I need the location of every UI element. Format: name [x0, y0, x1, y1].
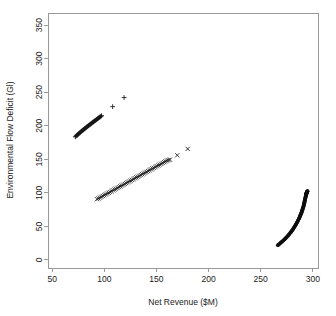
y-tick-label: 150	[34, 152, 44, 166]
x-tick-label: 50	[47, 274, 57, 284]
data-points-group	[73, 95, 309, 247]
y-axis-title: Environmental Flow Deficit (Gl)	[5, 81, 15, 198]
x-tick-label: 150	[149, 274, 163, 284]
y-tick-label: 50	[34, 221, 44, 231]
series-middle-band	[95, 147, 190, 202]
data-point	[306, 189, 310, 193]
x-axis-title: Net Revenue ($M)	[148, 297, 218, 307]
x-tick-label: 200	[201, 274, 215, 284]
data-point	[186, 147, 190, 151]
y-tick-label: 300	[34, 51, 44, 65]
y-tick-label: 100	[34, 185, 44, 199]
y-tick-label: 0	[34, 257, 44, 262]
series-lower-right-arc	[276, 189, 309, 247]
plot-canvas: 50100150200250300 050100150200250300350 …	[0, 0, 336, 316]
series-upper-band	[73, 95, 127, 139]
y-tick-label: 250	[34, 85, 44, 99]
y-tick-labels: 050100150200250300350	[34, 18, 44, 263]
x-tick-label: 250	[254, 274, 268, 284]
x-tick-label: 300	[306, 274, 320, 284]
tick-marks-group	[44, 25, 313, 272]
scatter-plot-figure: 50100150200250300 050100150200250300350 …	[0, 0, 336, 316]
data-point	[122, 95, 127, 100]
data-point	[110, 104, 115, 109]
x-tick-labels: 50100150200250300	[47, 274, 320, 284]
x-tick-label: 100	[97, 274, 111, 284]
axes-group	[48, 13, 318, 268]
y-tick-label: 200	[34, 118, 44, 132]
y-tick-label: 350	[34, 18, 44, 32]
data-point	[175, 153, 179, 157]
